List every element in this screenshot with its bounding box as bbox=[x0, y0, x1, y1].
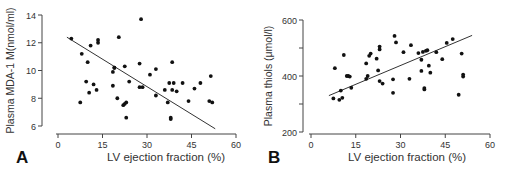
data-point bbox=[163, 88, 167, 92]
x-tick-label: 0 bbox=[55, 140, 60, 150]
data-point bbox=[170, 88, 174, 92]
data-point bbox=[115, 96, 119, 100]
data-point bbox=[457, 93, 461, 97]
data-point bbox=[331, 97, 335, 101]
data-point bbox=[84, 80, 88, 84]
data-point bbox=[111, 84, 115, 88]
data-point bbox=[409, 43, 413, 47]
data-point bbox=[124, 101, 128, 105]
data-point bbox=[69, 37, 73, 41]
figure: 68101214015304560Plasma MDA-1 M(nmol/ml)… bbox=[0, 0, 508, 178]
x-tick-label: 15 bbox=[351, 140, 361, 150]
data-point bbox=[460, 52, 464, 56]
x-tick-label: 30 bbox=[142, 140, 152, 150]
data-point bbox=[141, 85, 145, 89]
data-point bbox=[419, 69, 423, 73]
data-point bbox=[175, 89, 179, 93]
data-point bbox=[445, 41, 449, 45]
y-tick-label: 200 bbox=[282, 128, 297, 138]
data-point bbox=[170, 60, 174, 64]
regression-line bbox=[67, 37, 215, 129]
x-tick-label: 45 bbox=[186, 140, 196, 150]
data-point bbox=[348, 75, 352, 79]
data-point bbox=[376, 69, 380, 73]
panel-a-label: A bbox=[16, 148, 28, 168]
data-point bbox=[391, 91, 395, 95]
x-tick-label: 15 bbox=[97, 140, 107, 150]
y-tick-label: 10 bbox=[26, 66, 36, 76]
data-point bbox=[78, 101, 82, 105]
data-point bbox=[172, 81, 176, 85]
data-point bbox=[434, 50, 438, 54]
data-point bbox=[408, 77, 412, 81]
data-point bbox=[210, 101, 214, 105]
data-point bbox=[87, 91, 91, 95]
data-point bbox=[428, 71, 432, 75]
data-point bbox=[427, 64, 431, 68]
data-point bbox=[378, 45, 382, 49]
x-tick-label: 30 bbox=[395, 140, 405, 150]
data-point bbox=[369, 52, 373, 56]
y-tick-label: 400 bbox=[282, 72, 297, 82]
data-point bbox=[187, 99, 191, 103]
y-axis-label: Plasma thiols (μmol/l) bbox=[262, 26, 274, 127]
data-point bbox=[181, 81, 185, 85]
x-tick-label: 60 bbox=[485, 140, 495, 150]
data-point bbox=[127, 80, 131, 84]
data-point bbox=[199, 81, 203, 85]
y-tick-label: 14 bbox=[26, 11, 36, 21]
data-point bbox=[419, 58, 423, 62]
data-point bbox=[440, 57, 444, 61]
data-point bbox=[166, 101, 170, 105]
data-point bbox=[148, 73, 152, 77]
data-point bbox=[80, 52, 84, 56]
data-point bbox=[167, 81, 171, 85]
data-point bbox=[349, 86, 353, 90]
y-tick-label: 600 bbox=[282, 16, 297, 26]
panel-b-label: B bbox=[268, 148, 280, 168]
x-tick-label: 0 bbox=[308, 140, 313, 150]
data-point bbox=[112, 66, 116, 70]
data-point bbox=[92, 82, 96, 86]
panel-b-plot: 200400600015304560Plasma thiols (μmol/l) bbox=[262, 16, 495, 151]
data-point bbox=[209, 74, 213, 78]
data-point bbox=[169, 116, 173, 120]
data-point bbox=[89, 44, 93, 48]
data-point bbox=[138, 62, 142, 66]
data-point bbox=[117, 35, 121, 39]
data-point bbox=[393, 34, 397, 38]
data-point bbox=[378, 79, 382, 83]
data-point bbox=[139, 17, 143, 21]
data-point bbox=[381, 82, 385, 86]
data-point bbox=[342, 53, 346, 57]
data-point bbox=[417, 51, 421, 55]
data-point bbox=[391, 77, 395, 81]
data-point bbox=[339, 89, 343, 93]
data-point bbox=[402, 50, 406, 54]
data-point bbox=[333, 66, 337, 70]
data-point bbox=[111, 70, 115, 74]
data-point bbox=[86, 60, 90, 64]
data-point bbox=[425, 48, 429, 52]
data-point bbox=[461, 75, 465, 79]
data-point bbox=[364, 62, 368, 66]
data-point bbox=[95, 88, 99, 92]
x-tick-label: 45 bbox=[440, 140, 450, 150]
panel-a-x-axis-label: LV ejection fraction (%) bbox=[107, 151, 225, 163]
data-point bbox=[96, 38, 100, 42]
data-point bbox=[375, 57, 379, 61]
data-point bbox=[154, 94, 158, 98]
panel-b-x-axis-label: LV ejection fraction (%) bbox=[348, 151, 466, 163]
data-point bbox=[340, 96, 344, 100]
data-point bbox=[422, 88, 426, 92]
data-point bbox=[366, 74, 370, 78]
data-point bbox=[394, 41, 398, 45]
data-point bbox=[451, 37, 455, 41]
panel-a-plot: 68101214015304560Plasma MDA-1 M(nmol/ml) bbox=[4, 7, 241, 150]
data-point bbox=[154, 67, 158, 71]
y-tick-label: 12 bbox=[26, 38, 36, 48]
data-point bbox=[123, 64, 127, 68]
y-tick-label: 6 bbox=[31, 122, 36, 132]
data-point bbox=[193, 87, 197, 91]
data-point bbox=[124, 116, 128, 120]
